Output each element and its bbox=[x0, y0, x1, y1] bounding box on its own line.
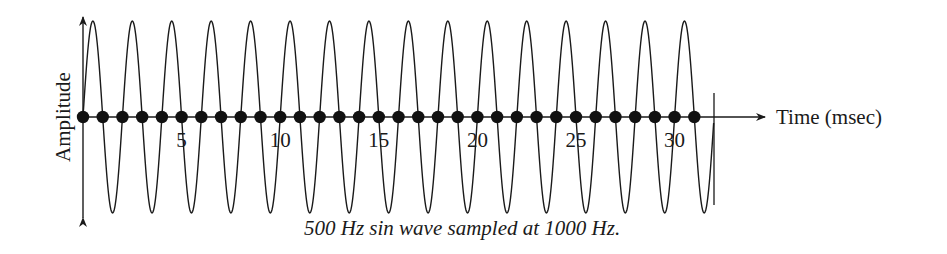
x-tick-labels: 51015202530 bbox=[176, 128, 685, 152]
sample-point bbox=[451, 111, 463, 123]
sample-point bbox=[629, 111, 641, 123]
sample-point bbox=[274, 111, 286, 123]
sample-point bbox=[195, 111, 207, 123]
y-axis-label: Amplitude bbox=[51, 72, 75, 162]
sample-point bbox=[412, 111, 424, 123]
x-tick-label: 20 bbox=[467, 128, 488, 152]
sample-point bbox=[649, 111, 661, 123]
sample-point bbox=[570, 111, 582, 123]
sample-point bbox=[313, 111, 325, 123]
sample-point bbox=[77, 111, 89, 123]
x-tick-label: 10 bbox=[270, 128, 291, 152]
sample-point bbox=[97, 111, 109, 123]
sample-point bbox=[333, 111, 345, 123]
sample-point bbox=[294, 111, 306, 123]
sample-point bbox=[511, 111, 523, 123]
x-axis-label: Time (msec) bbox=[776, 105, 882, 129]
sample-point bbox=[373, 111, 385, 123]
sample-point bbox=[156, 111, 168, 123]
x-tick-label: 5 bbox=[176, 128, 187, 152]
sample-point bbox=[432, 111, 444, 123]
sample-point bbox=[491, 111, 503, 123]
sample-point bbox=[215, 111, 227, 123]
sample-point bbox=[530, 111, 542, 123]
sample-point bbox=[668, 111, 680, 123]
sample-point bbox=[353, 111, 365, 123]
sample-point bbox=[136, 111, 148, 123]
sample-point bbox=[471, 111, 483, 123]
sample-point bbox=[392, 111, 404, 123]
sample-point bbox=[590, 111, 602, 123]
sample-point bbox=[235, 111, 247, 123]
sample-point bbox=[116, 111, 128, 123]
sample-point bbox=[688, 111, 700, 123]
sample-point bbox=[609, 111, 621, 123]
x-tick-label: 25 bbox=[566, 128, 587, 152]
sample-point bbox=[254, 111, 266, 123]
sample-point bbox=[175, 111, 187, 123]
x-tick-label: 30 bbox=[664, 128, 685, 152]
chart-caption: 500 Hz sin wave sampled at 1000 Hz. bbox=[304, 216, 620, 241]
sample-point bbox=[550, 111, 562, 123]
x-tick-label: 15 bbox=[368, 128, 389, 152]
